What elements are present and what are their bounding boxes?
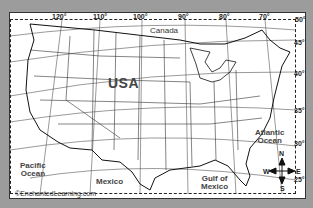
credit-text: ©EnchantedLearning.com — [15, 190, 96, 197]
lon-100-label: 100° — [133, 13, 147, 20]
atlantic-ocean-label: Atlantic Ocean — [255, 129, 284, 145]
compass-rose — [269, 158, 295, 184]
lon-110-label: 110° — [93, 13, 107, 20]
lon-90-label: 90° — [178, 13, 189, 20]
lat-40-label: 40° — [294, 70, 305, 77]
mexico-label: Mexico — [96, 178, 123, 186]
lat-30-label: 30° — [294, 140, 305, 147]
canada-label: Canada — [150, 27, 178, 35]
usa-label: USA — [108, 76, 139, 90]
pacific-ocean-label: Pacific Ocean — [20, 162, 46, 178]
lat-35-label: 35° — [294, 107, 305, 114]
lon-80-label: 80° — [219, 13, 230, 20]
lon-120-label: 120° — [52, 13, 66, 20]
gulf-of-mexico-label: Gulf of Mexico — [201, 175, 228, 191]
lat-25-label: 25° — [294, 176, 305, 183]
lon-70-label: 70° — [259, 13, 270, 20]
compass-west: W — [263, 168, 270, 175]
compass-south: S — [280, 185, 285, 192]
compass-east: E — [296, 168, 301, 175]
compass-north: N — [279, 150, 284, 157]
lat-45-label: 45° — [294, 39, 305, 46]
lat-50-label: 50° — [295, 16, 306, 23]
